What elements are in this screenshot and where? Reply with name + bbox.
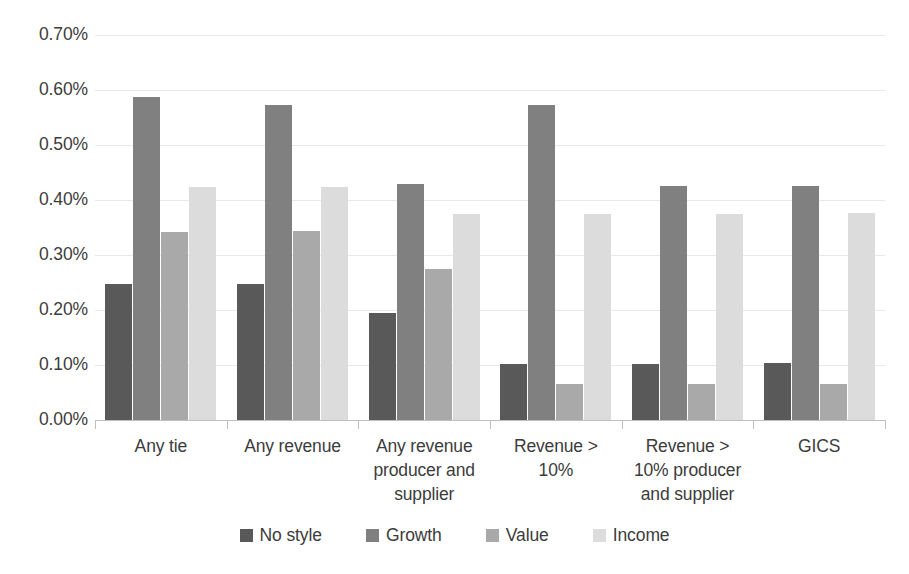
- x-axis-labels: Any tieAny revenueAny revenueproducer an…: [95, 434, 885, 506]
- bar[interactable]: [556, 384, 583, 420]
- x-axis-tick: [227, 420, 228, 429]
- y-axis-tick-label: 0.00%: [2, 411, 88, 429]
- x-axis-category-label-line: GICS: [755, 434, 883, 458]
- y-axis-tick-label: 0.70%: [2, 26, 88, 44]
- bar[interactable]: [425, 269, 452, 420]
- legend-item[interactable]: No style: [240, 527, 322, 545]
- bars-layer: [95, 35, 885, 420]
- y-axis-tick-label: 0.60%: [2, 81, 88, 99]
- x-axis-category-label-line: 10%: [492, 458, 620, 482]
- legend-swatch-icon: [593, 529, 606, 542]
- bar[interactable]: [716, 214, 743, 420]
- bar-group: [753, 35, 885, 420]
- bar[interactable]: [528, 105, 555, 420]
- bar[interactable]: [584, 214, 611, 420]
- bar[interactable]: [237, 284, 264, 420]
- grouped-bar-chart: 0.70%0.60%0.50%0.40%0.30%0.20%0.10%0.00%…: [0, 0, 909, 574]
- y-axis-tick-label: 0.10%: [2, 356, 88, 374]
- bar[interactable]: [189, 187, 216, 420]
- x-axis-category-label-line: Any tie: [97, 434, 225, 458]
- legend-item[interactable]: Income: [593, 527, 670, 545]
- x-axis-category-label-line: 10% producer: [624, 458, 752, 482]
- x-axis-tick: [885, 420, 886, 429]
- bar-group: [490, 35, 622, 420]
- bar[interactable]: [369, 313, 396, 420]
- y-axis: 0.70%0.60%0.50%0.40%0.30%0.20%0.10%0.00%: [0, 0, 88, 574]
- legend-swatch-icon: [240, 529, 253, 542]
- bar[interactable]: [453, 214, 480, 420]
- x-axis-category-label: Revenue >10% producerand supplier: [622, 434, 754, 506]
- x-axis-tick: [753, 420, 754, 429]
- x-axis-category-label-line: Any revenue: [360, 434, 488, 458]
- y-axis-tick-label: 0.50%: [2, 136, 88, 154]
- y-axis-tick-label: 0.20%: [2, 301, 88, 319]
- legend-item[interactable]: Growth: [366, 527, 442, 545]
- x-axis-category-label: GICS: [753, 434, 885, 506]
- bar[interactable]: [688, 384, 715, 420]
- legend-label: Growth: [386, 527, 442, 545]
- bar[interactable]: [265, 105, 292, 420]
- legend-swatch-icon: [486, 529, 499, 542]
- x-axis-category-label: Revenue >10%: [490, 434, 622, 506]
- bar[interactable]: [660, 186, 687, 420]
- legend-label: Value: [506, 527, 549, 545]
- bar[interactable]: [321, 187, 348, 420]
- x-axis-category-label: Any tie: [95, 434, 227, 506]
- bar[interactable]: [848, 213, 875, 420]
- bar[interactable]: [133, 97, 160, 420]
- x-axis-tick: [95, 420, 96, 429]
- bar-group: [95, 35, 227, 420]
- bar-group: [227, 35, 359, 420]
- bar[interactable]: [397, 184, 424, 421]
- bar[interactable]: [764, 363, 791, 420]
- bar[interactable]: [161, 232, 188, 420]
- x-axis-category-label-line: supplier: [360, 482, 488, 506]
- x-axis-category-label-line: producer and: [360, 458, 488, 482]
- bar[interactable]: [792, 186, 819, 420]
- legend-swatch-icon: [366, 529, 379, 542]
- legend-item[interactable]: Value: [486, 527, 549, 545]
- bar[interactable]: [500, 364, 527, 420]
- legend-label: No style: [260, 527, 322, 545]
- x-axis-tick: [358, 420, 359, 429]
- y-axis-tick-label: 0.40%: [2, 191, 88, 209]
- bar[interactable]: [820, 384, 847, 420]
- x-axis-category-label-line: Revenue >: [624, 434, 752, 458]
- y-axis-tick-label: 0.30%: [2, 246, 88, 264]
- chart-legend: No styleGrowthValueIncome: [0, 527, 909, 545]
- bar-group: [358, 35, 490, 420]
- x-axis-category-label-line: Revenue >: [492, 434, 620, 458]
- bar[interactable]: [293, 231, 320, 420]
- x-axis-category-label: Any revenue: [227, 434, 359, 506]
- x-axis-category-label-line: Any revenue: [229, 434, 357, 458]
- legend-label: Income: [613, 527, 670, 545]
- bar[interactable]: [105, 284, 132, 420]
- x-axis-tick: [490, 420, 491, 429]
- x-axis-tick: [622, 420, 623, 429]
- bar-group: [622, 35, 754, 420]
- x-axis-category-label: Any revenueproducer andsupplier: [358, 434, 490, 506]
- bar[interactable]: [632, 364, 659, 420]
- x-axis-category-label-line: and supplier: [624, 482, 752, 506]
